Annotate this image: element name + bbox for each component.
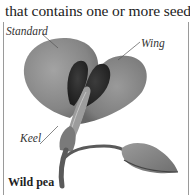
leader-keel [40,126,58,144]
label-standard: Standard [6,25,48,37]
label-wing: Wing [141,37,165,49]
label-keel: Keel [20,132,41,144]
bud [122,143,178,173]
caption: Wild pea [8,175,54,190]
